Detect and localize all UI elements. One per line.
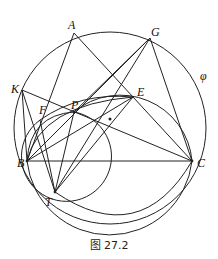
arc-cep <box>74 95 192 161</box>
label-p: P <box>71 99 78 111</box>
label-e: E <box>137 86 144 98</box>
point-c-marker <box>191 160 194 163</box>
geometry-figure <box>0 0 218 259</box>
segment-kb <box>22 90 27 161</box>
label-f: F <box>39 104 46 116</box>
label-b: B <box>17 157 24 169</box>
label-t: T <box>45 196 52 208</box>
label-c: C <box>197 157 205 169</box>
segment-ft <box>40 120 55 192</box>
label-a: A <box>68 19 75 31</box>
point-b-marker <box>26 160 29 163</box>
geometry-diagram <box>0 0 218 259</box>
segment-gc <box>150 38 192 161</box>
label-k: K <box>11 83 19 95</box>
label-phi: φ <box>200 70 207 82</box>
label-g: G <box>151 26 160 38</box>
figure-caption: 图 27.2 <box>0 236 218 252</box>
segment-gp <box>74 38 150 112</box>
center-dot <box>109 118 112 121</box>
point-t-marker <box>54 191 57 194</box>
